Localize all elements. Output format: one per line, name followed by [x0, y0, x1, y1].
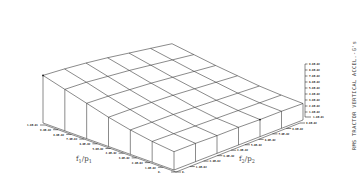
mesh-line-f2 — [43, 44, 172, 76]
wireframe-surface — [42, 44, 303, 152]
z-tick-label: 5.0E-02 — [309, 87, 320, 90]
z-tick-label: 4.0E-02 — [309, 93, 320, 96]
z-axis: 1.0E-022.0E-023.0E-024.0E-025.0E-026.0E-… — [305, 63, 324, 119]
y-tick-label: 2.0E-02 — [210, 160, 221, 163]
x-tick-label: 1.0E-01 — [27, 124, 38, 127]
y-tick-label: 9.0E-02 — [306, 122, 317, 125]
z-tick-label: 2.0E-02 — [309, 105, 320, 108]
mesh-line-f2 — [65, 55, 194, 90]
x-tick-label: 1.0E-02 — [145, 167, 156, 170]
y-tick-label: 3.0E-02 — [223, 155, 234, 158]
mesh-line-f1 — [108, 58, 239, 128]
y-axis-line — [176, 123, 300, 172]
x-axis-line — [45, 125, 176, 172]
mesh-line-f2 — [109, 76, 238, 117]
mesh-line-f2 — [130, 86, 259, 130]
y-tick-label: 6.0E-02 — [265, 139, 276, 142]
x-tick-label: 8.0E-02 — [53, 134, 64, 137]
y-axis-title: f2/p2 — [239, 155, 255, 164]
x-tick-label: 7.0E-02 — [66, 138, 77, 141]
f1-p1-axis: 0.1.0E-022.0E-023.0E-024.0E-025.0E-026.0… — [27, 124, 176, 174]
z-tick-label: 7.0E-02 — [309, 75, 320, 78]
mesh-line-f1 — [65, 69, 196, 143]
y-tick-label: 7.0E-02 — [278, 133, 289, 136]
z-base-label: 1.0E-01 — [313, 116, 324, 119]
mesh-line-f1 — [86, 63, 217, 136]
z-tick-label: 1.0E-02 — [309, 111, 320, 114]
z-tick-label: 9.0E-02 — [309, 63, 320, 66]
x-axis-title: f1/p1 — [76, 155, 92, 164]
mesh-line-f1 — [172, 44, 303, 104]
x-tick-label: 4.0E-02 — [106, 152, 117, 155]
surface-plot: 0.1.0E-022.0E-023.0E-024.0E-025.0E-026.0… — [0, 0, 362, 181]
y-tick-label: 4.0E-02 — [237, 149, 248, 152]
y-tick-label: 1.0E-02 — [196, 166, 207, 169]
z-tick-label: 6.0E-02 — [309, 81, 320, 84]
y-tick-label: 0. — [182, 171, 185, 174]
f2-p2-axis: 0.1.0E-022.0E-023.0E-024.0E-025.0E-026.0… — [176, 122, 317, 174]
x-tick-label: 2.0E-02 — [132, 162, 143, 165]
x-tick-label: 3.0E-02 — [119, 157, 130, 160]
x-tick-label: 5.0E-02 — [93, 148, 104, 151]
z-tick-label: 3.0E-02 — [309, 99, 320, 102]
z-axis-title: RMS TRACTOR VERTICAL ACCEL.-G's — [351, 41, 357, 150]
x-tick-label: 6.0E-02 — [79, 143, 90, 146]
x-tick-label: 0. — [158, 171, 161, 174]
x-tick-label: 9.0E-02 — [40, 129, 51, 132]
z-tick-label: 8.0E-02 — [309, 69, 320, 72]
mesh-line-f2 — [87, 65, 216, 103]
y-tick-label: 5.0E-02 — [251, 144, 262, 147]
y-tick-label: 8.0E-02 — [292, 128, 303, 131]
